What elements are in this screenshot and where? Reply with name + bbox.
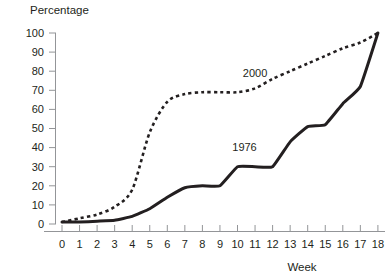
- y-axis-ticks: 0102030405060708090100: [26, 27, 56, 230]
- y-tick-label: 80: [32, 65, 44, 77]
- line-chart: Percentage Week 0102030405060708090100 0…: [0, 0, 392, 274]
- series-label-2000: 2000: [243, 67, 267, 79]
- x-tick-label: 1: [76, 238, 82, 250]
- x-tick-label: 5: [147, 238, 153, 250]
- x-tick-label: 0: [59, 238, 65, 250]
- y-tick-label: 20: [32, 180, 44, 192]
- y-tick-label: 100: [26, 27, 44, 39]
- x-tick-label: 10: [231, 238, 243, 250]
- x-tick-label: 2: [94, 238, 100, 250]
- series-annotations: 20001976: [232, 67, 267, 153]
- y-tick-label: 0: [38, 218, 44, 230]
- y-tick-label: 60: [32, 103, 44, 115]
- x-tick-label: 14: [302, 238, 314, 250]
- y-tick-label: 30: [32, 161, 44, 173]
- x-tick-label: 7: [182, 238, 188, 250]
- x-tick-label: 12: [266, 238, 278, 250]
- x-tick-label: 11: [249, 238, 260, 250]
- x-tick-label: 8: [199, 238, 205, 250]
- x-tick-label: 17: [354, 238, 366, 250]
- x-tick-label: 15: [319, 238, 331, 250]
- x-tick-label: 3: [112, 238, 118, 250]
- x-tick-label: 16: [337, 238, 349, 250]
- x-tick-label: 9: [217, 238, 223, 250]
- x-axis-title: Week: [287, 261, 316, 273]
- y-tick-label: 70: [32, 84, 44, 96]
- x-tick-label: 6: [164, 238, 170, 250]
- y-tick-label: 10: [32, 199, 44, 211]
- x-tick-label: 13: [284, 238, 296, 250]
- x-axis-ticks: 0123456789101112131415161718: [59, 225, 384, 250]
- x-tick-label: 18: [372, 238, 384, 250]
- series-line-2000: [62, 33, 378, 222]
- y-tick-label: 90: [32, 46, 44, 58]
- y-tick-label: 50: [32, 122, 44, 134]
- series-line-1976: [62, 33, 378, 222]
- y-axis-title: Percentage: [30, 4, 89, 16]
- series-label-1976: 1976: [232, 141, 256, 153]
- series-layer: [62, 33, 378, 222]
- y-tick-label: 40: [32, 141, 44, 153]
- x-tick-label: 4: [129, 238, 135, 250]
- chart-container: Percentage Week 0102030405060708090100 0…: [0, 0, 392, 274]
